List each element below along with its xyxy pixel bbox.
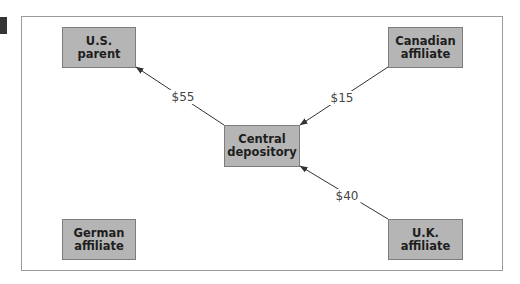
node-canadian-affiliate: Canadian affiliate: [388, 27, 463, 68]
section-marker: [0, 17, 7, 34]
node-central-depository-label: Central depository: [227, 133, 297, 159]
node-canadian-affiliate-label: Canadian affiliate: [395, 35, 455, 61]
node-uk-affiliate-label: U.K. affiliate: [401, 227, 451, 253]
node-us-parent-label: U.S. parent: [77, 35, 120, 61]
edge-label-15: $15: [329, 91, 356, 105]
edge-label-40: $40: [334, 189, 361, 203]
node-german-affiliate: German affiliate: [62, 219, 136, 260]
node-german-affiliate-label: German affiliate: [74, 227, 125, 253]
node-us-parent: U.S. parent: [62, 27, 136, 68]
edge-label-55: $55: [170, 90, 197, 104]
node-uk-affiliate: U.K. affiliate: [388, 219, 463, 260]
node-central-depository: Central depository: [224, 125, 300, 167]
